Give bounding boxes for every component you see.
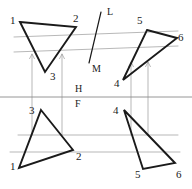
top-horizontal-lower	[14, 46, 178, 52]
vertex-label-2-triangle-123-front: 2	[76, 150, 82, 162]
label-m: M	[92, 63, 101, 74]
vertex-label-3-triangle-123-front: 3	[29, 104, 35, 116]
vertex-label-3-triangle-123-top: 3	[50, 70, 56, 82]
vertex-label-6-triangle-456-front: 6	[176, 168, 182, 180]
vertex-label-1-triangle-123-front: 1	[10, 160, 16, 172]
label-h: H	[75, 83, 82, 94]
projection-diagram: H F L M 123564321456	[0, 0, 192, 189]
bottom-construction-horizontals	[10, 135, 180, 152]
vertex-labels: 123564321456	[10, 12, 184, 180]
triangle-456-front	[124, 110, 175, 169]
triangle-123-top	[20, 22, 76, 72]
vertex-label-5-triangle-456-top: 5	[137, 14, 143, 26]
diagram-labels: H F L M	[75, 6, 113, 109]
cutting-plane-line-lm	[89, 12, 101, 63]
vertex-label-6-triangle-456-top: 6	[178, 31, 184, 43]
diagram-canvas: H F L M 123564321456	[0, 0, 192, 189]
vertex-label-4-triangle-456-front: 4	[113, 104, 119, 116]
vertex-label-5-triangle-456-front: 5	[135, 168, 141, 180]
vertex-label-4-triangle-456-top: 4	[114, 77, 120, 89]
label-f: F	[75, 98, 81, 109]
vertex-label-1-triangle-123-top: 1	[10, 14, 16, 26]
triangle-456-top	[123, 30, 177, 80]
vertex-label-2-triangle-123-top: 2	[73, 12, 79, 24]
projector-lines	[29, 54, 150, 135]
label-l: L	[107, 6, 113, 17]
triangle-123-front	[19, 110, 73, 168]
